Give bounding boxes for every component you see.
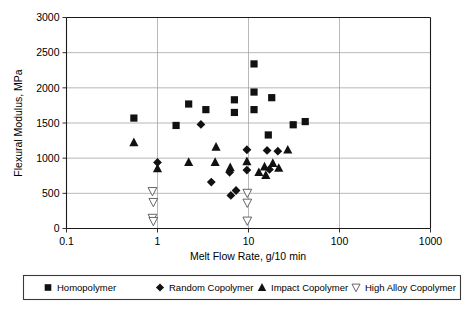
data-point <box>243 199 252 207</box>
x-axis-tick-labels: 0.11101001000 <box>59 235 442 247</box>
data-point <box>231 109 238 116</box>
data-point <box>265 131 272 138</box>
y-tick-label: 2500 <box>36 46 60 58</box>
y-tick-label: 3000 <box>36 11 60 23</box>
data-point <box>263 146 272 155</box>
data-point <box>172 122 179 129</box>
chart-canvas: 050010001500200025003000 0.11101001000 H… <box>0 0 474 312</box>
scatter-chart-figure: 050010001500200025003000 0.11101001000 H… <box>0 0 474 312</box>
y-tick-label: 2000 <box>36 82 60 94</box>
chart-legend: HomopolymerRandom CopolymerImpact Copoly… <box>24 276 461 300</box>
data-point <box>250 60 257 67</box>
data-point <box>207 178 216 187</box>
legend-label: Homopolymer <box>57 282 116 293</box>
data-point <box>149 198 158 206</box>
series-1 <box>153 120 282 200</box>
data-point <box>268 158 277 167</box>
data-point <box>197 120 206 129</box>
data-point <box>153 164 162 173</box>
legend-marker-filled-square <box>45 284 52 291</box>
x-tick-label: 1000 <box>419 235 443 247</box>
data-point <box>283 145 292 154</box>
legend-item-2[interactable]: Impact Copolymer <box>258 282 348 293</box>
grid-lines <box>67 18 431 229</box>
legend-label: High Alloy Copolymer <box>365 282 456 293</box>
y-axis-title: Flexural Modulus, MPa <box>12 69 24 177</box>
data-point <box>268 94 275 101</box>
data-point <box>243 217 252 225</box>
data-point <box>185 100 192 107</box>
x-tick-label: 100 <box>331 235 349 247</box>
data-point <box>250 88 257 95</box>
data-point <box>226 163 235 172</box>
series-0 <box>130 60 309 138</box>
data-point <box>211 142 220 151</box>
data-point <box>148 188 157 196</box>
data-point <box>149 217 158 225</box>
x-axis-title: Melt Flow Rate, g/10 min <box>190 250 306 262</box>
data-point <box>242 145 251 154</box>
y-tick-label: 1500 <box>36 117 60 129</box>
data-point <box>302 118 309 125</box>
y-tick-label: 1000 <box>36 152 60 164</box>
y-tick-label: 500 <box>42 187 60 199</box>
y-axis-tick-labels: 050010001500200025003000 <box>36 11 60 234</box>
data-point <box>273 147 282 156</box>
data-point <box>260 162 269 171</box>
x-tick-label: 1 <box>155 235 161 247</box>
y-tick-label: 0 <box>54 222 60 234</box>
legend-item-1[interactable]: Random Copolymer <box>156 282 254 293</box>
data-point <box>290 121 297 128</box>
x-tick-label: 0.1 <box>59 235 74 247</box>
data-point <box>242 166 251 175</box>
x-tick-label: 10 <box>243 235 255 247</box>
data-point <box>250 106 257 113</box>
data-point <box>211 157 220 166</box>
legend-label: Impact Copolymer <box>271 282 348 293</box>
data-point <box>130 114 137 121</box>
data-point <box>129 138 138 147</box>
legend-label: Random Copolymer <box>169 282 253 293</box>
data-point <box>231 96 238 103</box>
data-point <box>184 157 193 166</box>
legend-item-3[interactable]: High Alloy Copolymer <box>352 282 456 293</box>
data-points <box>129 60 309 225</box>
data-point <box>202 106 209 113</box>
